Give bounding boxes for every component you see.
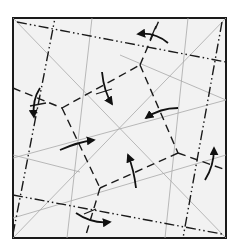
crease-pattern-diagram — [0, 0, 240, 251]
